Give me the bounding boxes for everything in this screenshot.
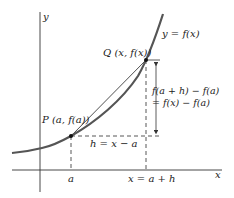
vertical-gap-line1: f(a + h) − f(a) [151, 85, 220, 96]
h-label: h = x − a [90, 138, 138, 149]
point-q [144, 58, 148, 62]
tick-label-a: a [68, 173, 74, 184]
point-p [69, 134, 73, 138]
point-p-label: P (a, f(a)) [41, 114, 90, 125]
function-curve [12, 14, 163, 153]
curve-label: y = f(x) [161, 28, 200, 39]
y-axis-label: y [42, 11, 49, 22]
tick-label-x: x = a + h [128, 173, 176, 184]
x-axis-label: x [215, 169, 221, 180]
point-q-label: Q (x, f(x)) [103, 47, 151, 58]
secant-diagram: y x y = f(x) Q (x, f(x)) P (a, f(a)) h =… [0, 0, 234, 198]
vertical-gap-line2: = f(x) − f(a) [152, 97, 210, 108]
